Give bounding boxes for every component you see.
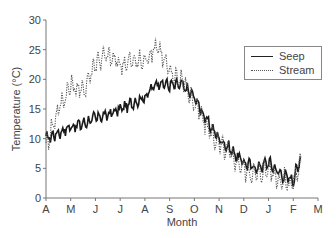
legend-item-stream: Stream [251, 63, 314, 77]
y-tick-label: 10 [29, 133, 41, 145]
x-axis-title: Month [167, 216, 198, 228]
legend: Seep Stream [244, 46, 322, 80]
x-tick-label: M [313, 203, 322, 215]
dotted-line-swatch-icon [251, 70, 273, 71]
x-axis: AMJJASONDJFM [42, 198, 322, 215]
y-tick-label: 0 [35, 192, 41, 204]
x-tick-label: M [66, 203, 75, 215]
y-tick-label: 5 [35, 162, 41, 174]
x-tick-label: J [117, 203, 123, 215]
x-tick-label: F [290, 203, 297, 215]
solid-line-swatch-icon [251, 56, 273, 57]
x-tick-label: O [190, 203, 199, 215]
x-tick-label: S [166, 203, 173, 215]
legend-item-seep: Seep [251, 49, 305, 63]
y-axis: 051015202530 [29, 14, 46, 204]
legend-label: Seep [279, 50, 305, 62]
x-tick-label: D [240, 203, 248, 215]
y-tick-label: 25 [29, 44, 41, 56]
x-tick-label: A [42, 203, 50, 215]
x-tick-label: N [215, 203, 223, 215]
y-tick-label: 15 [29, 103, 41, 115]
x-tick-label: A [141, 203, 149, 215]
y-axis-title: Temperature (°C) [10, 67, 22, 151]
x-tick-label: J [266, 203, 272, 215]
legend-label: Stream [279, 64, 314, 76]
temperature-chart: 051015202530 AMJJASONDJFM Temperature (°… [0, 0, 336, 238]
x-tick-label: J [93, 203, 99, 215]
y-tick-label: 30 [29, 14, 41, 26]
y-tick-label: 20 [29, 73, 41, 85]
